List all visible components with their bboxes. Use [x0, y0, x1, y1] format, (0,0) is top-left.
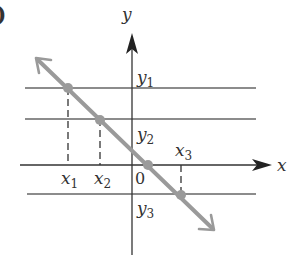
- label-x1: x1: [61, 168, 78, 191]
- label-y2: y2: [136, 124, 154, 147]
- point-x3-y3: [176, 190, 186, 200]
- y-axis-label: y: [121, 4, 132, 24]
- origin-label: 0: [135, 169, 145, 188]
- label-x2: x2: [94, 168, 111, 191]
- point-x1-y1: [63, 83, 73, 93]
- point-x2-y2: [95, 115, 105, 125]
- x-axis-label: x: [277, 155, 287, 175]
- panel-label: ): [0, 1, 6, 27]
- linear-function-diagram: ) y x 0 y1 y2 y3 x1 x2 x3: [0, 0, 297, 260]
- label-x3: x3: [175, 140, 192, 163]
- label-y1: y1: [136, 67, 154, 90]
- label-y3: y3: [136, 198, 154, 221]
